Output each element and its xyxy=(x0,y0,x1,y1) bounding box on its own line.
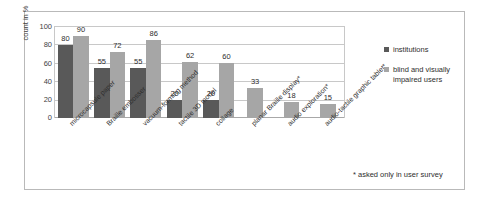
bar-value-label: 72 xyxy=(107,42,129,50)
legend-swatch-institutions-icon xyxy=(384,47,389,52)
legend-label-users: blind and visually impaired users xyxy=(393,65,462,84)
chart-legend: institutions blind and visually impaired… xyxy=(384,45,462,95)
legend-swatch-users-icon xyxy=(384,67,389,72)
legend-label-institutions: institutions xyxy=(393,45,462,54)
gridline-80 xyxy=(55,44,344,45)
bar-value-label: 62 xyxy=(179,52,201,60)
bar-value-label: 60 xyxy=(216,53,238,61)
bar-value-label: 86 xyxy=(143,30,165,38)
bar-chart-figure: count in % 100 80 60 40 20 0 80905572558… xyxy=(0,0,480,215)
gridline-100 xyxy=(55,26,344,27)
bar-institutions-0 xyxy=(58,45,74,118)
legend-item-institutions: institutions xyxy=(384,45,462,54)
legend-item-users: blind and visually impaired users xyxy=(384,65,462,84)
bar-value-label: 33 xyxy=(244,78,266,86)
bar-value-label: 90 xyxy=(70,26,92,34)
y-axis-title: count in % xyxy=(21,0,30,48)
footnote-text: * asked only in user survey xyxy=(353,170,443,179)
